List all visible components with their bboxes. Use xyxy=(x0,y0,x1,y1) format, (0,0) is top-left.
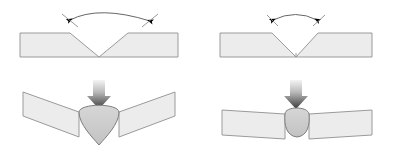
panel-bottom-right xyxy=(222,80,372,139)
plate-left-arm-distorted xyxy=(23,92,79,137)
groove-wall-left-extension xyxy=(62,14,78,27)
groove-angle-arc xyxy=(273,15,317,21)
block-arrow-down xyxy=(284,80,308,109)
diagram-canvas xyxy=(0,0,394,154)
panel-top-left xyxy=(20,13,178,57)
groove-wall-left-extension xyxy=(267,15,278,26)
weld-bead-rounded xyxy=(285,108,309,137)
block-arrow-down xyxy=(87,80,111,109)
plate-right-arm-distorted xyxy=(119,92,175,137)
plate-right-arm-flat xyxy=(309,110,372,139)
groove-angle-arc xyxy=(70,13,150,21)
weld-distortion-diagram xyxy=(0,0,394,154)
panel-bottom-left xyxy=(23,80,175,145)
groove-wall-right-extension xyxy=(313,15,325,26)
weld-bead-triangular xyxy=(79,105,119,145)
groove-wall-right-extension xyxy=(142,14,158,27)
panel-top-right xyxy=(220,15,372,58)
plate-wide-groove xyxy=(20,33,178,57)
plate-left-arm-flat xyxy=(222,110,285,139)
